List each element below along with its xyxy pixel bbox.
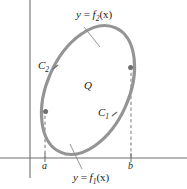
- upper-curve-label-y: y: [76, 8, 81, 20]
- upper-arc-label: C2: [38, 60, 49, 74]
- lower-arc-label-subscript: 1: [105, 112, 109, 121]
- leader-line-f1: [70, 144, 82, 169]
- upper-curve-label-equals: =: [84, 8, 90, 20]
- lower-curve-label-arg: (x): [96, 171, 109, 183]
- lower-curve-label-y: y: [73, 171, 78, 183]
- arc-marker-c1: [112, 112, 117, 116]
- upper-curve-label-arg: (x): [99, 8, 112, 20]
- region-label: Q: [84, 80, 92, 91]
- figure-region-q-diagram: y = f2(x) y = f1(x) C2 C1 Q a b: [0, 0, 187, 189]
- x-tick-label-a: a: [42, 161, 47, 171]
- lower-curve-label-equals: =: [81, 171, 87, 183]
- tangent-point-marker-a: [43, 109, 48, 114]
- lower-curve-label: y = f1(x): [73, 172, 109, 186]
- upper-curve-label: y = f2(x): [76, 9, 112, 23]
- tangent-point-marker-b: [128, 65, 133, 70]
- upper-arc-label-subscript: 2: [45, 65, 49, 74]
- lower-arc-label: C1: [98, 107, 109, 121]
- diagram-canvas: [0, 0, 187, 189]
- leader-line-f2: [84, 27, 100, 47]
- x-tick-label-b: b: [128, 161, 133, 171]
